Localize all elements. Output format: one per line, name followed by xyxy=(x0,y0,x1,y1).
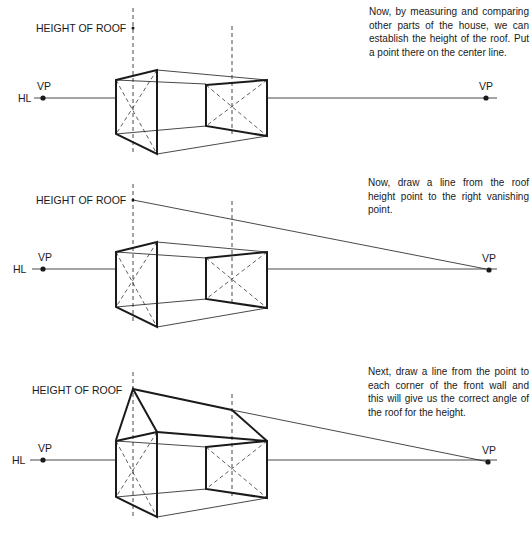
right-vanishing-point-dot xyxy=(485,459,490,464)
right-vp-label: VP xyxy=(482,444,496,456)
left-vanishing-point-dot xyxy=(40,266,45,271)
right-vp-label: VP xyxy=(479,80,493,92)
instruction-text: Next, draw a line from the point to each… xyxy=(368,365,529,419)
left-vanishing-point-dot xyxy=(40,457,45,462)
left-vp-label: VP xyxy=(38,442,52,454)
right-vp-label: VP xyxy=(482,252,496,264)
left-vanishing-point-dot xyxy=(40,95,45,100)
roof-height-point xyxy=(132,199,135,202)
horizon-line-label: HL xyxy=(12,454,25,466)
panel-step-3: HEIGHT OF ROOF HL VP VP Next, draw a lin… xyxy=(0,362,531,535)
instruction-text: Now, draw a line from the roof height po… xyxy=(368,176,529,217)
instruction-text: Now, by measuring and comparing other pa… xyxy=(369,5,529,59)
left-vp-label: VP xyxy=(38,251,52,263)
height-of-roof-label: HEIGHT OF ROOF xyxy=(36,22,126,34)
roof-height-point xyxy=(132,27,135,30)
height-of-roof-label: HEIGHT OF ROOF xyxy=(32,384,122,396)
height-of-roof-label: HEIGHT OF ROOF xyxy=(36,194,126,206)
panel-step-2: HEIGHT OF ROOF HL VP VP Now, draw a line… xyxy=(0,171,531,341)
right-vanishing-point-dot xyxy=(486,267,491,272)
horizon-line-label: HL xyxy=(13,263,26,275)
right-vanishing-point-dot xyxy=(483,95,488,100)
panel-step-1: HEIGHT OF ROOF HL VP VP Now, by measurin… xyxy=(0,0,531,170)
left-vp-label: VP xyxy=(37,80,51,92)
horizon-line-label: HL xyxy=(18,92,31,104)
